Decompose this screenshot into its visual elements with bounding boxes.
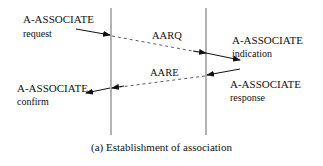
response-kind-label: response: [230, 92, 265, 103]
indication-primitive-label: A-ASSOCIATE: [232, 34, 303, 46]
request-kind-label: request: [23, 28, 52, 39]
figure-caption: (a) Establishment of association: [0, 141, 323, 153]
aarq-label: AARQ: [152, 30, 182, 41]
aarq-arrowhead: [193, 51, 206, 53]
response-primitive-label: A-ASSOCIATE: [230, 78, 301, 90]
confirm-kind-label: confirm: [17, 96, 49, 107]
request-arrow: [76, 29, 110, 35]
confirm-arrow: [86, 88, 110, 93]
indication-kind-label: indication: [232, 48, 272, 59]
aare-label: AARE: [150, 67, 179, 78]
confirm-primitive-label: A-ASSOCIATE: [17, 82, 88, 94]
response-arrow: [207, 69, 240, 75]
request-primitive-label: A-ASSOCIATE: [23, 13, 94, 25]
aare-arrowhead: [112, 86, 124, 88]
